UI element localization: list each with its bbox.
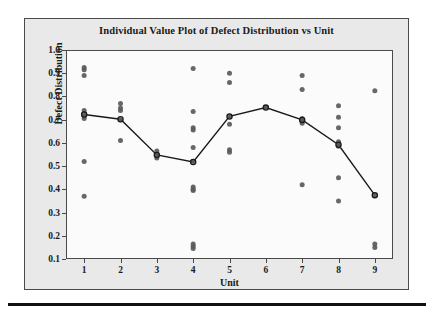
y-tick-mark <box>62 73 66 74</box>
x-tick-mark <box>266 259 267 263</box>
y-tick-label: 0.9 <box>30 68 60 78</box>
y-tick-label: 0.1 <box>30 254 60 264</box>
x-tick-mark <box>230 259 231 263</box>
y-tick-mark <box>62 50 66 51</box>
y-tick-mark <box>62 120 66 121</box>
y-tick-mark <box>62 166 66 167</box>
figure-container: Individual Value Plot of Defect Distribu… <box>0 0 433 312</box>
y-tick-label: 0.5 <box>30 161 60 171</box>
y-tick-label: 0.4 <box>30 184 60 194</box>
x-tick-label: 2 <box>111 265 131 275</box>
y-tick-mark <box>62 259 66 260</box>
x-tick-label: 9 <box>365 265 385 275</box>
x-tick-mark <box>375 259 376 263</box>
y-tick-label: 0.6 <box>30 138 60 148</box>
x-tick-label: 8 <box>329 265 349 275</box>
plot-area <box>66 50 393 259</box>
y-tick-label: 1.0 <box>30 45 60 55</box>
bottom-rule <box>8 303 426 306</box>
y-tick-label: 0.8 <box>30 91 60 101</box>
y-tick-mark <box>62 143 66 144</box>
y-tick-mark <box>62 96 66 97</box>
x-tick-mark <box>193 259 194 263</box>
x-tick-mark <box>339 259 340 263</box>
y-tick-label: 0.7 <box>30 115 60 125</box>
y-axis-label: Defect Distribution <box>53 9 64 159</box>
x-tick-label: 1 <box>74 265 94 275</box>
x-axis-label: Unit <box>66 277 393 288</box>
x-tick-label: 5 <box>220 265 240 275</box>
x-tick-label: 4 <box>183 265 203 275</box>
x-tick-mark <box>84 259 85 263</box>
x-tick-mark <box>302 259 303 263</box>
x-tick-label: 7 <box>292 265 312 275</box>
x-tick-mark <box>157 259 158 263</box>
y-tick-label: 0.2 <box>30 231 60 241</box>
x-tick-mark <box>121 259 122 263</box>
x-tick-label: 3 <box>147 265 167 275</box>
chart-title: Individual Value Plot of Defect Distribu… <box>24 25 409 36</box>
y-tick-mark <box>62 213 66 214</box>
y-tick-mark <box>62 236 66 237</box>
x-tick-label: 6 <box>256 265 276 275</box>
y-tick-mark <box>62 189 66 190</box>
y-tick-label: 0.3 <box>30 208 60 218</box>
